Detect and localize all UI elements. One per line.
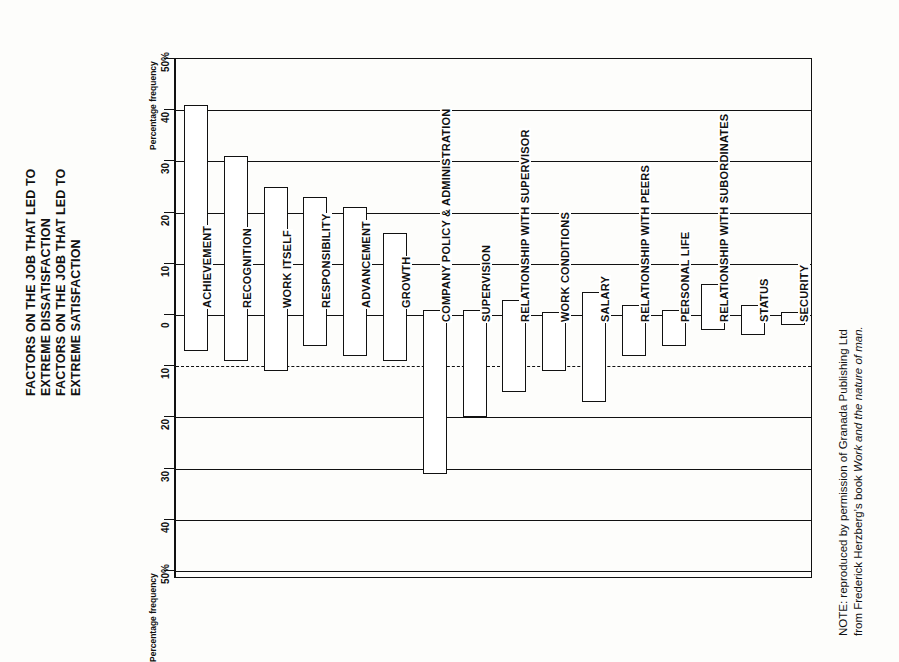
axis-tick-label--40: 40 <box>160 522 171 533</box>
bar-category-label: RESPONSIBILITY <box>320 213 332 309</box>
bar-category-label: RECOGNITION <box>241 227 253 309</box>
plot-area: ACHIEVEMENTRECOGNITIONWORK ITSELFRESPONS… <box>175 58 812 578</box>
axis-tick-label-50: 50% <box>160 52 171 72</box>
gridline--50 <box>176 571 811 572</box>
axis-tick-0 <box>164 314 175 315</box>
axis-tick-label-20: 20 <box>160 214 171 225</box>
bar-category-label: ADVANCEMENT <box>360 220 372 309</box>
source-note-line1: NOTE: reproduced by permission of Granad… <box>836 326 851 636</box>
bar-category-label: WORK ITSELF <box>281 229 293 309</box>
axis-tick--20 <box>164 416 175 417</box>
bar-category-label: PERSONAL LIFE <box>679 231 691 323</box>
axis-tick-label-30: 30 <box>160 163 171 174</box>
bar-dissatisfaction <box>542 315 566 371</box>
value-axis: 50%4030201001020304050%Percentage freque… <box>140 58 176 578</box>
bar-dissatisfaction <box>582 315 606 402</box>
bar-dissatisfaction <box>264 315 288 371</box>
source-note-line2: from Frederick Herzberg’s book Work and … <box>851 326 866 636</box>
bar-dissatisfaction <box>423 315 447 474</box>
gridline-30 <box>176 161 811 162</box>
axis-tick-label--30: 30 <box>160 470 171 481</box>
axis-tick-20 <box>164 212 175 213</box>
bar-category-label: ACHIEVEMENT <box>201 225 213 309</box>
axis-tick-30 <box>164 160 175 161</box>
bar-category-label: SECURITY <box>798 264 810 323</box>
axis-tick-label--10: 10 <box>160 368 171 379</box>
gridline--40 <box>176 520 811 521</box>
title-dissatisfaction-line2: EXTREME DISSATISFACTION <box>39 169 54 396</box>
bar-dissatisfaction <box>224 315 248 361</box>
bar-category-label: RELATIONSHIP WITH PEERS <box>639 164 651 323</box>
bar-dissatisfaction <box>383 315 407 361</box>
bar-category-label: SUPERVISION <box>480 244 492 323</box>
axis-caption-top: Percentage frequency <box>148 61 158 150</box>
axis-tick-label--50: 50% <box>160 564 171 584</box>
gridline--30 <box>176 469 811 470</box>
gridline-40 <box>176 110 811 111</box>
axis-tick--40 <box>164 519 175 520</box>
gridline--20 <box>176 417 811 418</box>
bar-category-label: GROWTH <box>400 256 412 309</box>
axis-tick-40 <box>164 109 175 110</box>
axis-tick-label-10: 10 <box>160 266 171 277</box>
axis-tick-label-40: 40 <box>160 112 171 123</box>
bar-dissatisfaction <box>463 315 487 417</box>
bar-category-label: RELATIONSHIP WITH SUBORDINATES <box>718 113 730 323</box>
bar-dissatisfaction <box>502 315 526 392</box>
bar-category-label: RELATIONSHIP WITH SUPERVISOR <box>519 128 531 323</box>
bar-dissatisfaction <box>303 315 327 346</box>
source-note-prefix: from Frederick Herzberg’s book <box>852 472 864 636</box>
bar-dissatisfaction <box>343 315 367 356</box>
title-dissatisfaction-line1: FACTORS ON THE JOB THAT LED TO <box>24 169 39 396</box>
title-satisfaction-line2: EXTREME SATISFACTION <box>69 169 84 396</box>
bar-category-label: WORK CONDITIONS <box>559 211 571 323</box>
bar-category-label: SALARY <box>599 275 611 323</box>
title-dissatisfaction: FACTORS ON THE JOB THAT LED TO EXTREME D… <box>24 169 53 396</box>
chart-titles: FACTORS ON THE JOB THAT LED TO EXTREME D… <box>0 0 150 420</box>
axis-tick--30 <box>164 468 175 469</box>
axis-tick-10 <box>164 263 175 264</box>
axis-tick--10 <box>164 365 175 366</box>
axis-caption-bottom: Percentage frequency <box>148 573 158 662</box>
bar-category-label: COMPANY POLICY & ADMINISTRATION <box>440 108 452 323</box>
bar-dissatisfaction <box>184 315 208 351</box>
title-satisfaction: FACTORS ON THE JOB THAT LED TO EXTREME S… <box>54 169 83 396</box>
source-note: NOTE: reproduced by permission of Granad… <box>836 326 866 636</box>
title-satisfaction-line1: FACTORS ON THE JOB THAT LED TO <box>54 169 69 396</box>
axis-tick-label-0: 0 <box>160 322 171 328</box>
bar-category-label: STATUS <box>758 277 770 323</box>
axis-tick-label--20: 20 <box>160 419 171 430</box>
source-note-book-title: Work and the nature of man. <box>852 326 864 472</box>
